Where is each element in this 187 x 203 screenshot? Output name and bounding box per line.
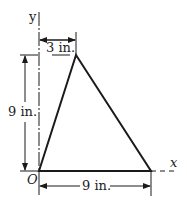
dim-bottom-label: 9 in.: [82, 178, 111, 193]
x-axis-label: x: [170, 155, 178, 170]
origin-label: O: [27, 172, 38, 187]
triangle-diagram: y x O 3 in. 9 in. 9 in.: [0, 0, 187, 203]
dim-top-label: 3 in.: [46, 40, 75, 55]
diagram-canvas: y x O 3 in. 9 in. 9 in.: [0, 0, 187, 203]
dim-left-label: 9 in.: [8, 104, 37, 119]
triangle: [39, 55, 151, 171]
y-axis-label: y: [28, 9, 37, 24]
